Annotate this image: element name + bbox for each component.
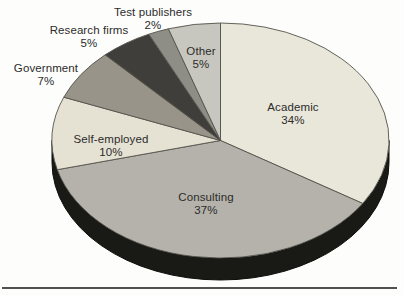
label-test-publishers-name: Test publishers [114,6,192,19]
label-academic-pct: 34% [267,114,318,127]
label-consulting-name: Consulting [178,191,233,204]
label-research-firms-name: Research firms [50,24,129,37]
label-self-employed-name: Self-employed [74,133,149,146]
label-other: Other 5% [186,45,215,71]
label-other-name: Other [186,45,215,58]
label-self-employed-pct: 10% [74,146,149,159]
label-consulting-pct: 37% [178,204,233,217]
label-research-firms: Research firms 5% [50,24,129,50]
label-government: Government 7% [14,62,78,88]
pie-chart-figure: Test publishers 2% Research firms 5% Gov… [0,0,404,295]
label-academic-name: Academic [267,101,318,114]
label-consulting: Consulting 37% [178,191,233,217]
bottom-rule [2,287,397,289]
label-self-employed: Self-employed 10% [74,133,149,159]
label-academic: Academic 34% [267,101,318,127]
label-other-pct: 5% [186,58,215,71]
label-research-firms-pct: 5% [50,37,129,50]
label-government-pct: 7% [14,75,78,88]
label-government-name: Government [14,62,78,75]
